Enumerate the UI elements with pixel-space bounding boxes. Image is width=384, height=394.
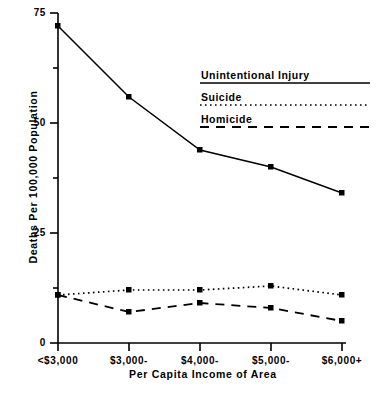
chart-figure: 75 50 25 0 <$3,000 $3,000- $4,000- $5,00… [0, 0, 384, 394]
x-tick-label-under-3000: <$3,000 [22, 355, 94, 366]
legend-label-unintentional-injury: Unintentional Injury [201, 69, 310, 81]
y-tick-label-75: 75 [14, 7, 46, 18]
x-axis-title: Per Capita Income of Area [58, 368, 348, 380]
series-homicide [55, 292, 345, 324]
x-tick-label-3000: $3,000- [93, 355, 165, 366]
x-tick-label-6000-plus: $6,000+ [306, 355, 378, 366]
x-ticks [58, 343, 342, 351]
series-line-unintentional-injury [58, 26, 342, 193]
y-axis-title: Deaths Per 100,000 Population [27, 62, 39, 292]
x-tick-label-4000: $4,000- [164, 355, 236, 366]
legend-label-suicide: Suicide [201, 91, 242, 103]
series-markers-unintentional-injury [55, 23, 345, 196]
series-unintentional-injury [55, 23, 345, 196]
legend-label-homicide: Homicide [201, 113, 252, 125]
series-line-homicide [58, 295, 342, 321]
series-markers-suicide [55, 283, 345, 298]
y-tick-label-0: 0 [14, 337, 46, 348]
series-markers-homicide [55, 292, 345, 324]
x-tick-label-5000: $5,000- [235, 355, 307, 366]
series-suicide [55, 283, 345, 298]
chart-plot-area [0, 0, 384, 394]
